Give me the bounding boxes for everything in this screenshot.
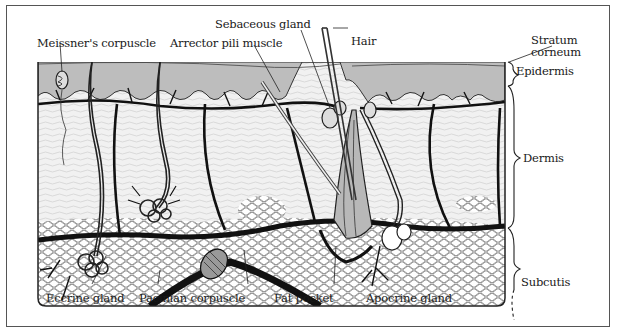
label-meissners-corpuscle: Meissner's corpuscle	[37, 37, 156, 49]
label-apocrine-gland: Apocrine gland	[366, 292, 452, 304]
label-subcutis: Subcutis	[521, 276, 570, 288]
label-dermis: Dermis	[523, 152, 564, 164]
label-eccrine-gland: Eccrine gland	[46, 292, 124, 304]
label-arrector-pili-muscle: Arrector pili muscle	[170, 37, 282, 49]
label-hair: Hair	[351, 35, 376, 47]
label-stratum-corneum-line2: corneum	[531, 46, 581, 58]
label-sebaceous-gland: Sebaceous gland	[215, 18, 311, 30]
label-fat-pocket: Fat pocket	[274, 292, 333, 304]
label-pacinian-corpuscle: Pacinian corpuscle	[139, 292, 245, 304]
label-epidermis: Epidermis	[516, 65, 574, 77]
